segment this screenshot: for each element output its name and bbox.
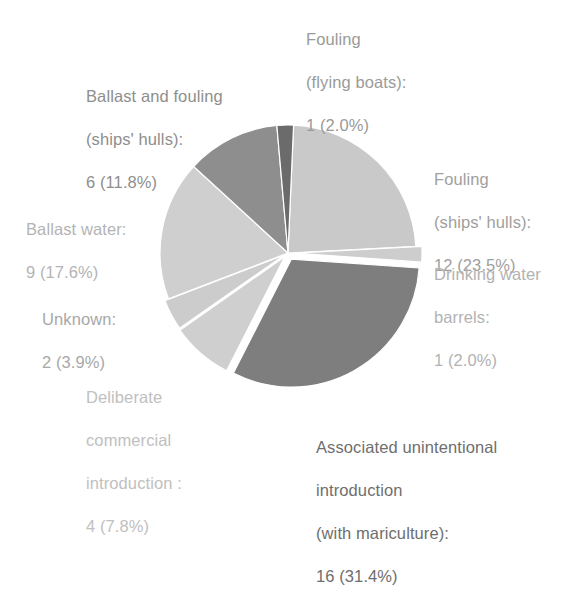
label-fouling-flying-boats: Fouling (flying boats): 1 (2.0%) [306,8,407,158]
label-value: 16 (31.4%) [316,566,497,587]
label-line: (ships' hulls): [86,130,183,148]
label-line: Fouling [306,30,361,48]
label-line: Deliberate [86,388,162,406]
label-value: 1 (2.0%) [434,350,541,371]
label-line: (flying boats): [306,73,407,91]
label-value: 9 (17.6%) [26,262,126,283]
label-line: Associated unintentional [316,438,497,456]
label-line: (with mariculture): [316,524,449,542]
label-line: Ballast and fouling [86,87,223,105]
label-line: (ships' hulls): [434,213,531,231]
label-line: Ballast water: [26,220,126,238]
label-deliberate-commercial-introduction: Deliberate commercial introduction : 4 (… [86,366,182,559]
label-line: introduction [316,481,403,499]
label-line: barrels: [434,308,490,326]
label-line: Drinking water [434,265,541,283]
label-value: 6 (11.8%) [86,172,223,193]
label-ballast-and-fouling-ships-hulls: Ballast and fouling (ships' hulls): 6 (1… [86,65,223,215]
label-line: Fouling [434,170,489,188]
label-associated-unintentional-introduction: Associated unintentional introduction (w… [316,416,497,589]
label-line: introduction : [86,474,182,492]
label-line: Unknown: [42,310,116,328]
label-value: 4 (7.8%) [86,516,182,537]
label-drinking-water-barrels: Drinking water barrels: 1 (2.0%) [434,243,541,393]
label-line: commercial [86,431,171,449]
label-value: 1 (2.0%) [306,115,407,136]
